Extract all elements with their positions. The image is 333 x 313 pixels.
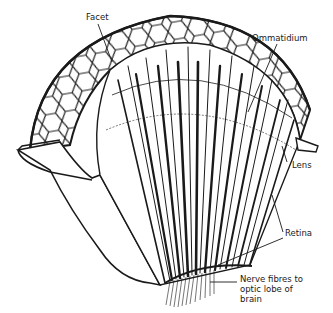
label-facet: Facet	[86, 12, 109, 22]
compound-eye-diagram	[0, 0, 333, 313]
label-nerve-line3: brain	[240, 294, 262, 304]
label-nerve-line2: optic lobe of	[240, 284, 293, 294]
label-ommatidium: Ommatidium	[252, 33, 308, 43]
label-lens: Lens	[292, 160, 312, 170]
label-nerve-line1: Nerve fibres to	[240, 274, 303, 284]
label-retina: Retina	[285, 228, 312, 238]
lens-flange	[296, 138, 318, 152]
